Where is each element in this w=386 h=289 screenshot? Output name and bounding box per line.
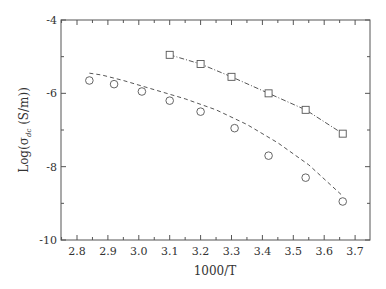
circle-marker <box>231 124 239 132</box>
square-marker <box>228 73 235 80</box>
circle-marker <box>138 88 146 96</box>
x-tick-label: 3.3 <box>223 245 241 258</box>
y-tick-label: -10 <box>39 234 57 247</box>
square-marker <box>197 61 204 68</box>
x-tick-label: 3.6 <box>315 245 333 258</box>
circle-marker <box>339 198 347 206</box>
circle-marker <box>110 80 118 88</box>
x-tick-label: 3.5 <box>285 245 303 258</box>
y-tick-label: -8 <box>46 161 57 174</box>
axis-ticks: 2.82.93.03.13.23.33.43.53.63.7-4-6-8-10 <box>39 14 370 258</box>
conductivity-chart: 2.82.93.03.13.23.33.43.53.63.7-4-6-8-10 … <box>0 0 386 289</box>
x-tick-label: 3.4 <box>254 245 272 258</box>
x-tick-label: 3.7 <box>346 245 364 258</box>
y-axis-label: Log(σdc (S/m)) <box>17 87 33 173</box>
x-tick-label: 2.9 <box>99 245 117 258</box>
plot-frame <box>61 20 370 240</box>
square-marker <box>339 130 346 137</box>
circle-marker <box>166 97 174 105</box>
circle-marker <box>302 174 310 182</box>
circle-marker <box>86 77 94 85</box>
x-tick-label: 3.0 <box>130 245 148 258</box>
x-tick-label: 3.1 <box>161 245 179 258</box>
square-marker <box>166 51 173 58</box>
square-marker <box>265 90 272 97</box>
x-tick-label: 3.2 <box>192 245 210 258</box>
x-axis-label: 1000/T <box>194 264 237 278</box>
circle-marker <box>265 152 273 160</box>
circle-marker <box>197 108 205 116</box>
y-tick-label: -4 <box>46 14 57 27</box>
y-tick-label: -6 <box>46 87 57 100</box>
data-series <box>86 51 347 205</box>
square-marker <box>302 106 309 113</box>
x-tick-label: 2.8 <box>68 245 86 258</box>
